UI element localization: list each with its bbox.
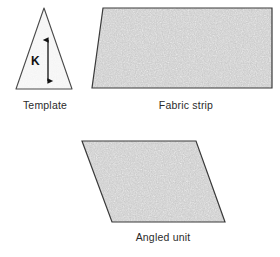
template-triangle-texture: [16, 8, 72, 89]
angled-unit-diagram: K Template Fabric strip Angled unit: [0, 0, 280, 257]
fabric-strip-texture: [92, 8, 272, 88]
angled-unit-shape: [82, 141, 225, 222]
caption-fabric-strip: Fabric strip: [122, 99, 250, 111]
caption-angled-unit: Angled unit: [103, 231, 223, 243]
fabric-strip-shape: [92, 8, 272, 88]
caption-template: Template: [0, 99, 90, 111]
diagram-canvas: [0, 0, 280, 257]
template-shape: [16, 8, 72, 89]
angled-unit-texture: [82, 141, 225, 222]
height-measure-label: K: [31, 54, 40, 68]
